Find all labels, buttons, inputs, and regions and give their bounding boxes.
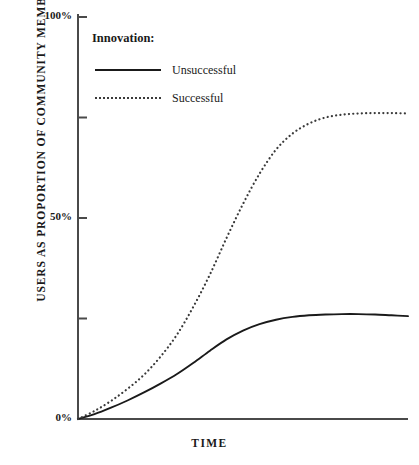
chart-container: USERS AS PROPORTION OF COMMUNITY MEMBERS… [0, 0, 419, 465]
y-tick-label-50: 50% [26, 210, 72, 222]
solid-line-swatch-icon [92, 65, 164, 75]
series-line-successful [78, 113, 408, 419]
y-axis-tick-marks [78, 17, 87, 419]
dotted-line-swatch-icon [92, 93, 164, 103]
legend-title: Innovation: [92, 31, 272, 46]
x-axis-label: TIME [0, 437, 419, 449]
series-line-unsuccessful [78, 314, 408, 419]
legend-item-successful: Successful [92, 87, 272, 109]
y-tick-label-0: 0% [26, 411, 72, 423]
legend-label-unsuccessful: Unsuccessful [164, 63, 236, 78]
data-series-layer [78, 113, 408, 419]
y-tick-label-100: 100% [26, 9, 72, 21]
chart-legend: Innovation: Unsuccessful Successful [92, 31, 272, 115]
legend-label-successful: Successful [164, 91, 223, 106]
legend-item-unsuccessful: Unsuccessful [92, 59, 272, 81]
